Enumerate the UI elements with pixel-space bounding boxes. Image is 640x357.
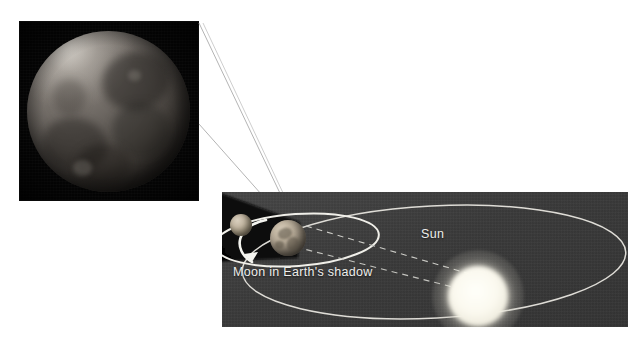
figure-stage: Sun Moon in Earth's shadow xyxy=(0,0,640,357)
diagram-vectors xyxy=(222,192,628,327)
lunar-crater xyxy=(128,70,141,81)
moon-body xyxy=(230,214,252,236)
sun-label: Sun xyxy=(421,227,444,241)
lunar-mare xyxy=(53,79,86,114)
earth-landmass xyxy=(275,241,284,249)
moon-disc xyxy=(27,31,190,192)
earth-body xyxy=(270,220,306,256)
eclipsed-moon-photograph xyxy=(20,22,198,200)
moon-in-earths-shadow-label: Moon in Earth's shadow xyxy=(233,265,373,279)
sun-body xyxy=(448,266,508,326)
lunar-crater xyxy=(73,160,93,176)
orbit-diagram: Sun Moon in Earth's shadow xyxy=(222,192,628,327)
